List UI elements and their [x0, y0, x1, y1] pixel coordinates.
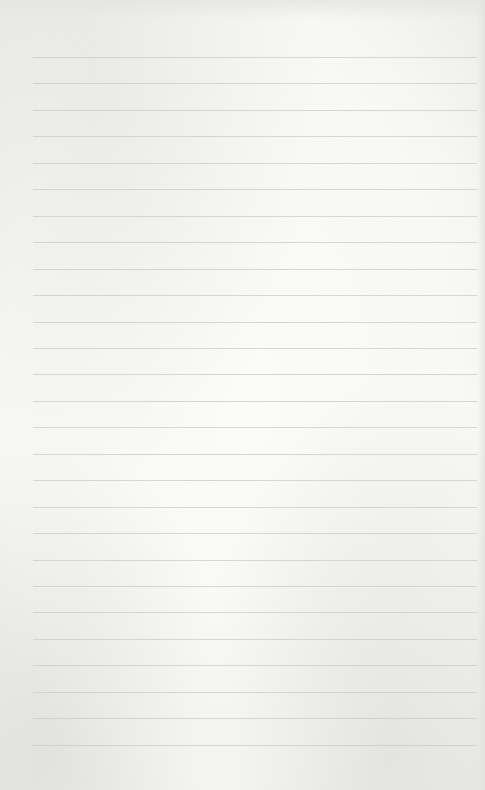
- ruled-line: [33, 454, 477, 455]
- ruled-line: [33, 322, 477, 323]
- ruled-line: [33, 612, 477, 613]
- ruled-line: [33, 560, 477, 561]
- ruled-line: [33, 242, 477, 243]
- ruled-line: [33, 692, 477, 693]
- ruled-line: [33, 295, 477, 296]
- ruled-line: [33, 533, 477, 534]
- ruled-line: [33, 665, 477, 666]
- ruled-line: [33, 163, 477, 164]
- paper-top-shadow: [0, 0, 485, 20]
- ruled-line: [33, 348, 477, 349]
- ruled-line: [33, 401, 477, 402]
- ruled-line: [33, 427, 477, 428]
- ruled-line: [33, 480, 477, 481]
- ruled-line: [33, 189, 477, 190]
- paper-right-shadow: [477, 0, 485, 790]
- ruled-line: [33, 507, 477, 508]
- ruled-line: [33, 216, 477, 217]
- ruled-line: [33, 639, 477, 640]
- ruled-line: [33, 269, 477, 270]
- ruled-paper-sheet: [0, 0, 485, 790]
- ruled-line: [33, 718, 477, 719]
- ruled-line: [33, 83, 477, 84]
- ruled-line: [33, 110, 477, 111]
- ruled-line: [33, 136, 477, 137]
- ruled-line: [33, 586, 477, 587]
- ruled-line: [33, 374, 477, 375]
- ruled-line: [33, 745, 477, 746]
- ruled-line: [33, 57, 477, 58]
